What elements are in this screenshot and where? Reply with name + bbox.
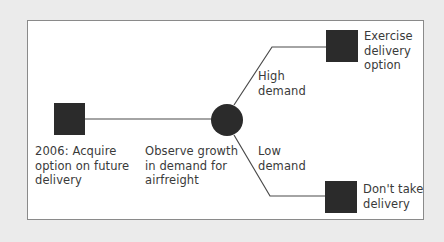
start-decision-node <box>54 103 85 135</box>
no-delivery-node-label: Don't take delivery <box>363 182 423 211</box>
start-node-label: 2006: Acquire option on future delivery <box>35 144 129 188</box>
exercise-node-label: Exercise delivery option <box>364 29 413 73</box>
high-demand-label: High demand <box>258 69 306 98</box>
exercise-decision-node <box>326 30 358 62</box>
low-demand-label: Low demand <box>258 144 306 173</box>
chance-node <box>211 104 243 136</box>
chance-node-label: Observe growth in demand for airfreight <box>145 144 238 188</box>
no-delivery-decision-node <box>325 181 357 213</box>
